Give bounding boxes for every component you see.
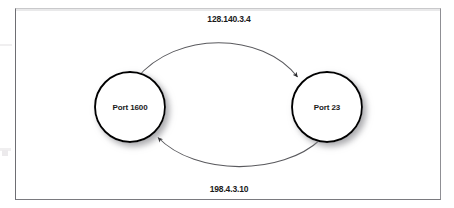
- node-port-23-label: Port 23: [314, 103, 341, 112]
- edge-outbound-path: [137, 43, 298, 79]
- node-port-23[interactable]: Port 23: [292, 72, 362, 142]
- node-port-1600-label: Port 1600: [112, 103, 148, 112]
- diagram-canvas: 128.140.3.4 198.4.3.10 Port 1600 Port 23: [0, 0, 454, 208]
- edge-inbound-label: 198.4.3.10: [210, 184, 249, 194]
- figure-root: 128.140.3.4 198.4.3.10 Port 1600 Port 23: [0, 0, 454, 208]
- edge-inbound: 198.4.3.10: [158, 138, 321, 195]
- edge-outbound: 128.140.3.4: [137, 14, 298, 78]
- node-port-1600[interactable]: Port 1600: [95, 72, 165, 142]
- edge-outbound-label: 128.140.3.4: [207, 14, 251, 24]
- edge-inbound-path: [158, 138, 321, 167]
